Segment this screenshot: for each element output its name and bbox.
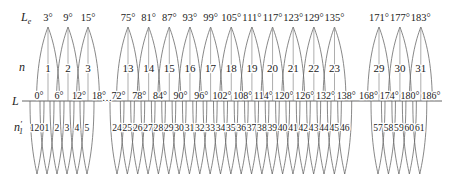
l-axis-tick-label: 6° xyxy=(55,90,64,101)
row-label-l-axis: L xyxy=(11,94,19,108)
lobe-n1-label: 30 xyxy=(174,122,184,133)
arch-angle-label: 93° xyxy=(183,12,198,23)
arch-n-label: 21 xyxy=(288,62,299,74)
row-label-n1-sub: 1 xyxy=(19,127,23,136)
arch-angle-label: 123° xyxy=(283,12,303,23)
arch-angle-label: 81° xyxy=(141,12,156,23)
l-axis-tick-label: 72° xyxy=(112,90,126,101)
lobe-n1-label: 29 xyxy=(164,122,174,133)
lobe-n1-label: 33 xyxy=(205,122,215,133)
arch-n-label: 13 xyxy=(123,62,135,74)
arch-n-label: 2 xyxy=(65,62,71,74)
arch-angle-label: 9° xyxy=(63,12,72,23)
arch-angle-label: 117° xyxy=(263,12,283,23)
arch-angle-label: 99° xyxy=(203,12,218,23)
arch-n-label: 16 xyxy=(184,62,196,74)
lobe-n1-label: 40 xyxy=(278,122,288,133)
arch-n-label: 14 xyxy=(143,62,155,74)
arch-n-label: 3 xyxy=(85,62,91,74)
l-axis-tick-label: 114° xyxy=(254,90,273,101)
lobe-n1-label: 42 xyxy=(299,122,309,133)
l-axis-tick-label: 138° xyxy=(337,90,356,101)
arch-angle-label: 105° xyxy=(221,12,241,23)
l-axis-tick-label: 126° xyxy=(295,90,314,101)
l-axis-tick-label: 84° xyxy=(153,90,167,101)
arch-n-label: 20 xyxy=(267,62,279,74)
l-axis-tick-label: 0° xyxy=(35,90,44,101)
lobe-n1-label: 38 xyxy=(257,122,267,133)
l-axis-tick-label: 78° xyxy=(132,90,146,101)
arch-angle-label: 87° xyxy=(162,12,177,23)
arch-n-label: 31 xyxy=(415,62,426,74)
arch-n-label: 17 xyxy=(205,62,217,74)
lobe-n1-label: 27 xyxy=(143,122,153,133)
lobe-n1-label: 41 xyxy=(288,122,298,133)
arch-n-label: 18 xyxy=(226,62,238,74)
axis-ellipsis: … xyxy=(102,92,112,103)
lobe-n1-label: 4 xyxy=(75,122,80,133)
arch-n-label: 30 xyxy=(394,62,406,74)
lobe-n1-label: 61 xyxy=(415,122,425,133)
arch-angle-label: 111° xyxy=(242,12,261,23)
arch-angle-label: 183° xyxy=(411,12,431,23)
l-axis-tick-label: 108° xyxy=(233,90,252,101)
lobe-n1-label: 59 xyxy=(394,122,404,133)
arch-angle-label: 129° xyxy=(304,12,324,23)
lobe-n1-label: 39 xyxy=(267,122,277,133)
lobe-n1-label: 28 xyxy=(154,122,164,133)
lobe-n1-label: 46 xyxy=(340,122,350,133)
l-axis-tick-label: 12° xyxy=(72,90,86,101)
lobe-n1-label: 24 xyxy=(112,122,122,133)
arch-n-label: 22 xyxy=(308,62,319,74)
arch-n-label: 23 xyxy=(329,62,341,74)
lobe-n1-label: 25 xyxy=(123,122,133,133)
arch-n-label: 1 xyxy=(45,62,51,74)
arch-angle-label: 135° xyxy=(325,12,345,23)
lobe-n1-label: 44 xyxy=(319,122,329,133)
lobe-n1-label: 37 xyxy=(247,122,257,133)
l-axis-tick-label: 168° xyxy=(359,90,378,101)
lobe-n1-label: 36 xyxy=(236,122,246,133)
lobe-n1-label: 26 xyxy=(133,122,143,133)
row-label-n1: n′1 xyxy=(14,119,23,136)
row-label-le: Le xyxy=(20,10,32,26)
l-axis-tick-label: 90° xyxy=(174,90,188,101)
lobe-n1-label: 43 xyxy=(309,122,319,133)
arch-angle-label: 15° xyxy=(81,12,96,23)
lobe-n1-label: 57 xyxy=(373,122,383,133)
arch-n-label: 15 xyxy=(164,62,176,74)
lobe-n1-label: 58 xyxy=(384,122,394,133)
l-axis-tick-label: 186° xyxy=(421,90,440,101)
arch-n-label: 29 xyxy=(374,62,386,74)
lobe-n1-label: 120 xyxy=(30,122,45,133)
l-axis-tick-label: 180° xyxy=(401,90,420,101)
lobe-n1-label: 2 xyxy=(55,122,60,133)
lobe-n1-label: 32 xyxy=(195,122,205,133)
lobe-n1-label: 5 xyxy=(85,122,90,133)
harmonic-arch-diagram: Le n L n′1 3°19°215°30°6°12°18°120123457… xyxy=(0,0,452,188)
lobe-n1-label: 35 xyxy=(226,122,236,133)
l-axis-tick-label: 96° xyxy=(194,90,208,101)
lobe-n1-label: 45 xyxy=(330,122,340,133)
lobe-n1-label: 1 xyxy=(45,122,50,133)
row-label-le-sub: e xyxy=(28,17,32,26)
row-label-n: n xyxy=(19,60,25,74)
l-axis-tick-label: 120° xyxy=(275,90,294,101)
l-axis-tick-label: 132° xyxy=(316,90,335,101)
lobe-n1-label: 3 xyxy=(65,122,70,133)
arch-n-label: 19 xyxy=(246,62,258,74)
arch-angle-label: 171° xyxy=(369,12,389,23)
lobe-n1-label: 60 xyxy=(405,122,415,133)
arch-angle-label: 3° xyxy=(43,12,52,23)
arch-angle-label: 177° xyxy=(390,12,410,23)
l-axis-tick-label: 174° xyxy=(380,90,399,101)
l-axis-tick-label: 102° xyxy=(213,90,232,101)
lobe-n1-label: 31 xyxy=(185,122,195,133)
lobe-n1-label: 34 xyxy=(216,122,226,133)
arch-angle-label: 75° xyxy=(121,12,136,23)
lobes-layer xyxy=(30,101,427,174)
